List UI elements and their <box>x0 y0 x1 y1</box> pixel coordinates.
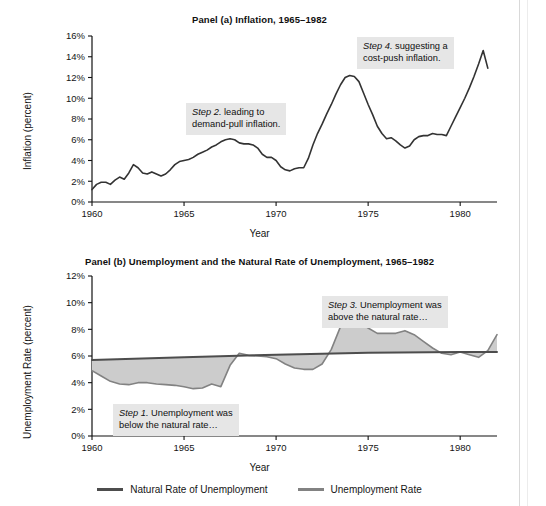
legend-swatch-icon <box>97 488 123 491</box>
y-tick-label: 0% <box>71 430 85 441</box>
legend-item: Unemployment Rate <box>298 484 422 495</box>
callout-step2-line1: leading to <box>221 107 264 117</box>
y-tick-label: 12% <box>66 72 86 83</box>
series-line <box>92 51 488 190</box>
y-tick-label: 14% <box>66 51 86 62</box>
callout-step4-step: Step 4. <box>363 41 392 51</box>
panel-a-callout-step4: Step 4. suggesting a cost-push inflation… <box>357 37 454 69</box>
x-tick-label: 1975 <box>358 442 379 453</box>
x-tick-label: 1960 <box>81 208 102 219</box>
y-tick-label: 4% <box>71 155 85 166</box>
y-tick-label: 6% <box>71 350 85 361</box>
y-tick-label: 0% <box>71 196 85 207</box>
panel-a-x-axis-label: Year <box>0 228 519 239</box>
panel-a-inflation: Panel (a) Inflation, 1965–1982 Inflation… <box>0 0 519 246</box>
callout-step3-step: Step 3. <box>328 300 357 310</box>
legend-item: Natural Rate of Unemployment <box>97 484 267 495</box>
callout-step3-line2: above the natural rate… <box>328 312 428 322</box>
y-tick-label: 2% <box>71 404 85 415</box>
x-tick-label: 1980 <box>450 442 471 453</box>
x-tick-label: 1970 <box>266 208 287 219</box>
page-edge-line-outer <box>527 0 528 506</box>
figure-container: Panel (a) Inflation, 1965–1982 Inflation… <box>0 0 546 506</box>
y-tick-label: 16% <box>66 30 86 41</box>
x-tick-label: 1965 <box>173 208 194 219</box>
panel-b-plot: 0%2%4%6%8%10%12%19601965197019751980 <box>0 246 519 482</box>
callout-step1-line1: Unemployment was <box>148 408 232 418</box>
y-tick-label: 2% <box>71 176 85 187</box>
x-tick-label: 1975 <box>358 208 379 219</box>
y-tick-label: 10% <box>66 297 86 308</box>
x-tick-label: 1965 <box>173 442 194 453</box>
y-tick-label: 10% <box>66 93 86 104</box>
legend-label: Unemployment Rate <box>331 484 422 495</box>
callout-step1-step: Step 1. <box>119 408 148 418</box>
page-edge-line <box>519 0 520 506</box>
y-tick-label: 6% <box>71 134 85 145</box>
callout-step4-line1: suggesting a <box>392 41 447 51</box>
figure-legend: Natural Rate of UnemploymentUnemployment… <box>0 484 519 495</box>
panel-a-callout-step2: Step 2. leading to demand-pull inflation… <box>186 103 286 135</box>
legend-label: Natural Rate of Unemployment <box>130 484 267 495</box>
callout-step4-line2: cost-push inflation. <box>363 53 441 63</box>
panel-b-x-axis-label: Year <box>0 462 519 473</box>
x-tick-label: 1980 <box>450 208 471 219</box>
callout-step1-line2: below the natural rate… <box>119 420 218 430</box>
y-tick-label: 8% <box>71 113 85 124</box>
callout-step2-line2: demand-pull inflation. <box>192 119 280 129</box>
panel-b-unemployment: Panel (b) Unemployment and the Natural R… <box>0 246 519 482</box>
y-tick-label: 8% <box>71 324 85 335</box>
x-tick-label: 1970 <box>266 442 287 453</box>
legend-swatch-icon <box>298 488 324 491</box>
callout-step2-step: Step 2. <box>192 107 221 117</box>
y-tick-label: 4% <box>71 377 85 388</box>
callout-step3-line1: Unemployment was <box>357 300 441 310</box>
panel-b-callout-step1: Step 1. Unemployment was below the natur… <box>113 404 239 436</box>
panel-b-callout-step3: Step 3. Unemployment was above the natur… <box>322 296 448 328</box>
x-tick-label: 1960 <box>81 442 102 453</box>
y-tick-label: 12% <box>66 270 86 281</box>
